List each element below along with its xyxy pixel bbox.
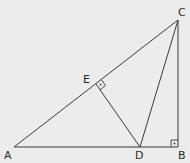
right-angle-marker-b bbox=[171, 140, 178, 147]
label-a: A bbox=[4, 149, 12, 162]
label-c: C bbox=[178, 6, 186, 19]
right-angle-marker-e bbox=[100, 80, 106, 90]
geometry-diagram: A B C D E bbox=[0, 0, 190, 163]
label-e: E bbox=[83, 73, 90, 86]
label-d: D bbox=[135, 149, 143, 162]
label-b: B bbox=[178, 149, 186, 162]
segment-cd bbox=[140, 20, 178, 147]
segment-de bbox=[96, 84, 140, 147]
segment-ca bbox=[14, 20, 178, 147]
